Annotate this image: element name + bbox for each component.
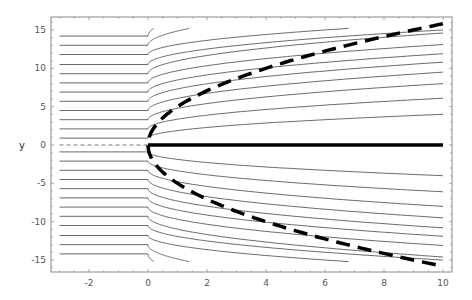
y-axis-label: y (19, 140, 25, 151)
y-tick-label: -5 (37, 178, 46, 188)
x-tick-labels: -20246810 (85, 278, 449, 288)
streamline (60, 216, 444, 257)
y-tick-labels: 151050-5-10-15 (31, 25, 46, 265)
y-tick-label: 10 (35, 63, 47, 73)
x-tick-label: 0 (145, 278, 151, 288)
y-tick-label: -15 (31, 255, 46, 265)
streamline (60, 236, 349, 262)
streamline (60, 114, 444, 138)
streamline (60, 152, 444, 176)
streamline (60, 28, 190, 45)
x-tick-label: 2 (204, 278, 210, 288)
streamline (60, 198, 444, 236)
y-tick-label: -10 (31, 217, 46, 227)
x-tick-label: 10 (437, 278, 449, 288)
x-tick-label: 6 (322, 278, 328, 288)
y-tick-label: 0 (40, 140, 46, 150)
streamline (60, 28, 154, 36)
streamline (60, 254, 154, 262)
streamline (60, 33, 444, 74)
streamline-plot: -20246810 151050-5-10-15 y (0, 0, 472, 300)
y-tick-label: 15 (35, 25, 46, 35)
x-tick-label: 8 (381, 278, 387, 288)
plot-lines (60, 24, 444, 267)
streamline (60, 30, 444, 65)
streamline (60, 28, 349, 54)
x-tick-label: -2 (85, 278, 94, 288)
streamline (60, 245, 190, 262)
y-tick-label: 5 (40, 102, 46, 112)
streamline (60, 189, 444, 228)
x-tick-label: 4 (263, 278, 269, 288)
streamline (60, 207, 444, 245)
streamline (60, 45, 444, 83)
streamline (60, 62, 444, 101)
